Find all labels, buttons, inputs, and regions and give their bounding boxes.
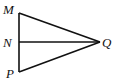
triangle-diagram: M N P Q: [0, 0, 113, 80]
label-p: P: [5, 66, 14, 80]
segment-pq: [19, 42, 100, 72]
label-q: Q: [102, 35, 112, 50]
label-n: N: [2, 35, 13, 50]
segment-mq: [19, 13, 100, 42]
label-m: M: [2, 2, 15, 17]
